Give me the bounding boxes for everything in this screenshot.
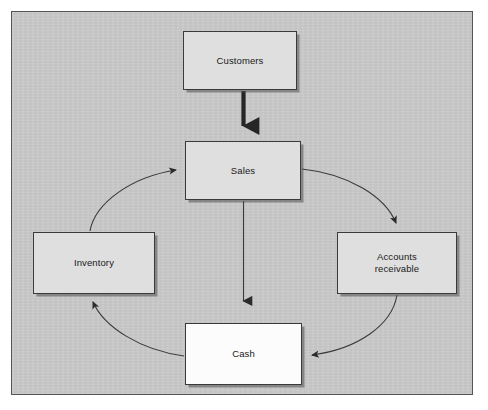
node-cash-label: Cash	[228, 348, 259, 360]
diagram-canvas: Customers Sales Inventory Accounts recei…	[0, 0, 488, 410]
connector-accounts-receivable-to-cash	[312, 295, 397, 355]
node-accounts-receivable[interactable]: Accounts receivable	[337, 232, 457, 294]
connector-inventory-to-sales	[90, 170, 176, 231]
node-inventory[interactable]: Inventory	[33, 232, 155, 294]
node-cash[interactable]: Cash	[185, 323, 302, 385]
connector-cash-to-inventory	[93, 302, 184, 356]
node-customers-label: Customers	[213, 55, 268, 67]
node-accounts-receivable-label: Accounts receivable	[371, 251, 423, 275]
node-customers[interactable]: Customers	[183, 31, 297, 90]
node-inventory-label: Inventory	[70, 257, 118, 269]
connector-sales-to-accounts-receivable	[302, 169, 396, 223]
node-sales-label: Sales	[227, 165, 259, 177]
node-sales[interactable]: Sales	[185, 141, 301, 200]
